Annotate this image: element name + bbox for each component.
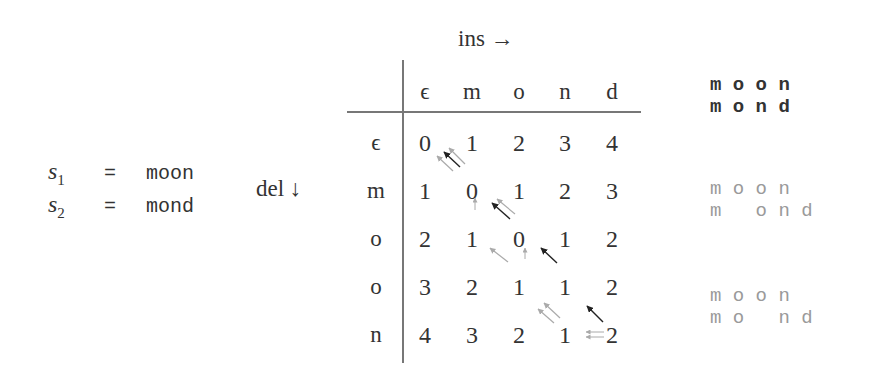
diagonal-arrow-group-2-2 (492, 199, 515, 219)
diagonal-arrow-3-3 (541, 248, 557, 263)
diagonal-arrow-group-4-3 (538, 303, 560, 323)
diagonal-arrow-group-1-1 (437, 148, 465, 171)
alignment-1-top: m o o n (710, 74, 790, 96)
left-arrow-group-4-4 (586, 332, 604, 337)
alignment-2-bottom: m o n d (710, 200, 813, 222)
alignment-3-top: m o o n (710, 285, 790, 307)
diagonal-arrow-4-4 (587, 306, 603, 322)
alignment-3-bottom: m o n d (710, 307, 813, 329)
diagonal-arrow-3-2 (490, 248, 508, 262)
alignment-2-top: m o o n (710, 178, 790, 200)
alignment-1-bottom: m o n d (710, 96, 790, 118)
